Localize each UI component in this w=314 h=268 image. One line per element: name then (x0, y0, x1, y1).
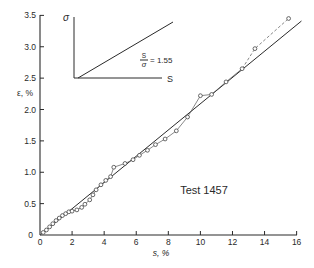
data-point-marker (48, 225, 52, 229)
data-point-marker (75, 208, 79, 212)
data-connectors (40, 19, 289, 235)
data-point-marker (138, 153, 142, 157)
data-point-marker (146, 148, 150, 152)
y-axis-label: ε, % (17, 88, 34, 98)
x-tick-label: 14 (260, 237, 270, 247)
x-axis-label: s, % (153, 248, 170, 258)
y-tick-label: 1.5 (24, 136, 36, 146)
data-point-marker (154, 143, 158, 147)
inset-ratio-numerator: S (142, 52, 147, 59)
x-tick-label: 8 (166, 237, 171, 247)
inset-x-label: S (167, 74, 173, 84)
x-tick-label: 4 (102, 237, 107, 247)
x-ticks: 0246810121416 (38, 231, 302, 247)
data-point-marker (83, 202, 87, 206)
inset-ratio-denominator: σ (142, 60, 147, 69)
inset-y-label: σ (63, 12, 70, 23)
y-tick-label: 1.0 (24, 167, 36, 177)
fit-line (40, 21, 301, 235)
data-point-marker (99, 183, 103, 187)
fit-line-path (40, 21, 301, 235)
x-tick-label: 6 (134, 237, 139, 247)
data-point-marker (51, 222, 55, 226)
x-tick-label: 12 (228, 237, 238, 247)
strain-chart: 0246810121416 00.51.01.52.02.53.03.5 s, … (0, 0, 314, 268)
data-point-marker (253, 47, 257, 51)
data-point-marker (94, 188, 98, 192)
data-point-marker (163, 137, 167, 141)
y-tick-label: 2.0 (24, 105, 36, 115)
data-point-marker (174, 129, 178, 133)
connector-dashed (242, 19, 289, 69)
data-point-marker (45, 228, 49, 232)
data-point-marker (287, 17, 291, 21)
data-point-marker (80, 205, 84, 209)
x-tick-label: 2 (70, 237, 75, 247)
data-point-marker (104, 179, 108, 183)
data-point-marker (112, 165, 116, 169)
data-point-marker (70, 209, 74, 213)
x-tick-label: 10 (196, 237, 206, 247)
inset-diagonal (78, 22, 173, 78)
y-tick-label: 2.5 (24, 73, 36, 83)
data-point-marker (88, 198, 92, 202)
data-point-marker (131, 158, 135, 162)
y-ticks: 00.51.01.52.02.53.03.5 (24, 10, 44, 240)
y-tick-label: 3.0 (24, 42, 36, 52)
y-tick-label: 0.5 (24, 199, 36, 209)
data-point-marker (186, 115, 190, 119)
data-point-marker (210, 93, 214, 97)
data-point-marker (240, 67, 244, 71)
data-point-marker (91, 193, 95, 197)
data-point-marker (224, 80, 228, 84)
y-tick-label: 0 (28, 230, 33, 240)
x-tick-label: 16 (292, 237, 302, 247)
data-point-marker (109, 175, 113, 179)
data-point-marker (199, 94, 203, 98)
test-annotation: Test 1457 (180, 184, 228, 196)
data-point-marker (123, 162, 127, 166)
data-markers (41, 17, 290, 235)
inset-diagram: σ S S σ = 1.55 (63, 12, 173, 84)
inset-ratio-value: = 1.55 (150, 56, 173, 65)
x-tick-label: 0 (38, 237, 43, 247)
y-tick-label: 3.5 (24, 10, 36, 20)
